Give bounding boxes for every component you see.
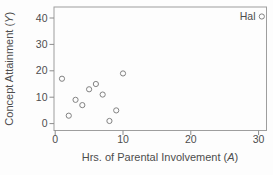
x-tick-label: 30 <box>253 133 265 145</box>
y-tick-label: 0 <box>42 117 48 129</box>
data-point <box>100 92 105 97</box>
scatter-points <box>59 71 125 124</box>
x-axis-label-suffix: ) <box>235 151 239 163</box>
y-tick-label: 40 <box>36 12 48 24</box>
data-point <box>59 76 64 81</box>
data-point <box>73 97 78 102</box>
x-axis-label-text: Hrs. of Parental Involvement ( <box>82 151 228 163</box>
y-tick-label: 10 <box>36 91 48 103</box>
legend: Hal <box>240 10 265 22</box>
scatterplot-figure: 010203040 0102030 Hrs. of Parental Invol… <box>0 0 273 175</box>
data-point <box>93 81 98 86</box>
y-axis-label-suffix: ) <box>3 12 15 16</box>
data-point <box>80 103 85 108</box>
x-tick-label: 10 <box>117 133 129 145</box>
y-tick-label: 20 <box>36 64 48 76</box>
y-axis-label: Concept Attainment (Y) <box>3 12 15 126</box>
plot-frame <box>54 7 267 131</box>
x-axis-label: Hrs. of Parental Involvement (A) <box>82 151 239 163</box>
x-tick-label: 20 <box>185 133 197 145</box>
x-tick-label: 0 <box>52 133 58 145</box>
legend-label: Hal <box>240 10 256 22</box>
data-point <box>87 87 92 92</box>
y-axis-ticks: 010203040 <box>36 12 54 130</box>
legend-marker-circle <box>259 14 264 19</box>
data-point <box>120 71 125 76</box>
data-point <box>114 108 119 113</box>
x-axis-label-variable: A <box>226 151 234 163</box>
y-tick-label: 30 <box>36 38 48 50</box>
data-point <box>66 113 71 118</box>
data-point <box>107 118 112 123</box>
x-axis-ticks: 0102030 <box>52 131 264 146</box>
chart-svg: 010203040 0102030 Hrs. of Parental Invol… <box>0 0 273 175</box>
y-axis-label-text: Concept Attainment ( <box>3 23 15 126</box>
